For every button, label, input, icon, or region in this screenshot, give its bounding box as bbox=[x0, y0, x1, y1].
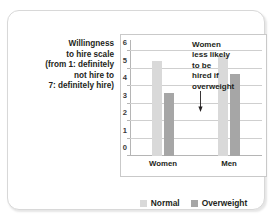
legend-swatch-overweight-icon bbox=[191, 200, 198, 207]
plot-area: 0123456 WomenMen Women less likely to be… bbox=[130, 44, 262, 156]
y-tick-mark bbox=[127, 120, 130, 121]
y-tick-label: 6 bbox=[123, 40, 127, 48]
y-axis-caption-line: not hire to bbox=[22, 71, 114, 82]
y-axis-caption-line: (from 1: definitely bbox=[22, 60, 114, 71]
plot-frame: 0123456 WomenMen Women less likely to be… bbox=[120, 34, 267, 177]
annotation-line: Women bbox=[192, 40, 234, 50]
x-tick-label: Men bbox=[221, 160, 237, 168]
bar-women-overweight bbox=[164, 93, 174, 156]
x-tick-label: Women bbox=[149, 160, 177, 168]
y-tick-label: 3 bbox=[123, 92, 127, 100]
y-tick-label: 2 bbox=[123, 110, 127, 118]
y-tick-mark bbox=[127, 68, 130, 69]
legend-swatch-normal-icon bbox=[140, 200, 147, 207]
y-tick-mark bbox=[127, 155, 130, 156]
y-axis-caption-line: Willingness bbox=[22, 39, 114, 50]
gridline bbox=[130, 155, 262, 156]
gridline bbox=[130, 138, 262, 139]
y-axis-caption-line: to hire scale bbox=[22, 50, 114, 61]
y-tick-mark bbox=[127, 85, 130, 86]
y-axis-caption-line: 7: definitely hire) bbox=[22, 81, 114, 92]
y-tick-label: 0 bbox=[123, 145, 127, 153]
legend: Normal Overweight bbox=[120, 199, 267, 207]
annotation-text: Women less likely to be hired if overwei… bbox=[192, 40, 234, 92]
annotation-line: less likely bbox=[192, 50, 234, 60]
legend-item-overweight: Overweight bbox=[191, 199, 248, 207]
y-tick-label: 1 bbox=[123, 127, 127, 135]
y-tick-mark bbox=[127, 138, 130, 139]
y-tick-mark bbox=[127, 103, 130, 104]
y-axis-caption: Willingness to hire scale (from 1: defin… bbox=[22, 39, 114, 92]
y-tick-mark bbox=[127, 50, 130, 51]
y-tick-label: 5 bbox=[123, 57, 127, 65]
y-tick-label: 4 bbox=[123, 75, 127, 83]
figure: Willingness to hire scale (from 1: defin… bbox=[0, 0, 277, 224]
y-axis-spine bbox=[130, 40, 131, 156]
gridline bbox=[130, 120, 262, 121]
legend-item-normal: Normal bbox=[140, 199, 180, 207]
legend-label-normal: Normal bbox=[151, 199, 180, 207]
bar-women-normal bbox=[152, 61, 162, 156]
annotation-line: hired if bbox=[192, 71, 234, 81]
annotation-line: to be bbox=[192, 61, 234, 71]
legend-label-overweight: Overweight bbox=[202, 199, 248, 207]
down-arrow-icon bbox=[197, 91, 204, 112]
chart-card: Willingness to hire scale (from 1: defin… bbox=[7, 10, 265, 210]
